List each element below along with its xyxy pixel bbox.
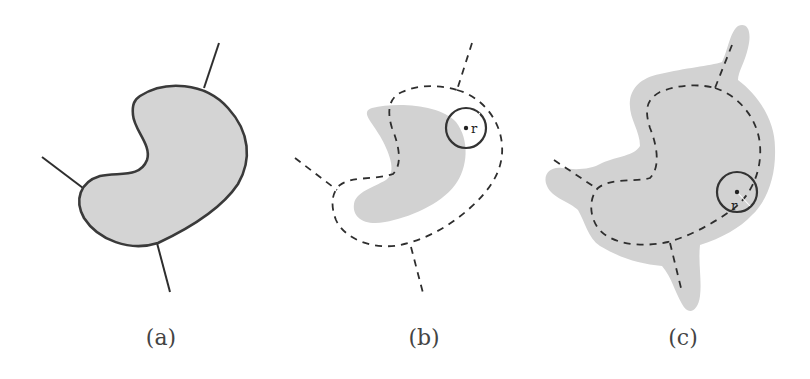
dashed-branch-bottom [411, 247, 423, 293]
circle-center-dot [464, 126, 468, 130]
circle-center-dot [735, 190, 739, 194]
dilated-region [545, 25, 775, 311]
region-shape [79, 86, 247, 246]
branch-line-bottom [157, 243, 170, 292]
branch-line-left [42, 157, 83, 188]
dashed-branch-left [295, 158, 337, 190]
caption-a: (a) [146, 325, 176, 350]
eroded-region [354, 105, 466, 223]
caption-c: (c) [668, 325, 698, 350]
radius-label: r [731, 198, 738, 213]
radius-label: r [471, 121, 478, 136]
panel-b: r [295, 43, 502, 293]
caption-b: (b) [408, 325, 439, 350]
branch-line-top [204, 43, 219, 88]
dashed-branch-top [457, 43, 472, 90]
figure-canvas: r r [0, 0, 810, 379]
panel-c: r [545, 25, 775, 311]
panel-a [42, 43, 247, 292]
